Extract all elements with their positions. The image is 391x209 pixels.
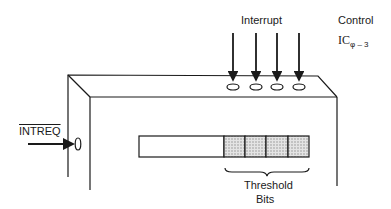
- interrupt-control-diagram: Interrupt Control ICφ – 3 INTREQ Thresho…: [0, 0, 391, 209]
- control-label: Control: [338, 14, 373, 26]
- ic-main-text: IC: [338, 33, 350, 47]
- interrupt-input-pins: [227, 84, 305, 90]
- ic-subscript: φ – 3: [350, 40, 369, 49]
- threshold-brace: [225, 168, 309, 176]
- threshold-label: Threshold: [244, 179, 293, 191]
- ic-box: [68, 75, 337, 190]
- bits-label: Bits: [256, 193, 274, 205]
- interrupt-arrows: [233, 33, 299, 80]
- intreq-arrow: [28, 138, 81, 150]
- register: [139, 136, 309, 157]
- intreq-label: INTREQ: [19, 125, 61, 137]
- interrupt-label: Interrupt: [241, 14, 282, 26]
- ic-label: ICφ – 3: [338, 33, 369, 49]
- diagram-drawing: [0, 0, 391, 209]
